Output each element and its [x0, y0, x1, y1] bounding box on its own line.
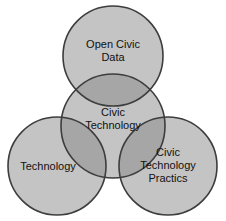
- venn-diagram-canvas: [0, 0, 226, 221]
- venn-diagram: Open Civic Data Civic Technology Technol…: [0, 0, 226, 221]
